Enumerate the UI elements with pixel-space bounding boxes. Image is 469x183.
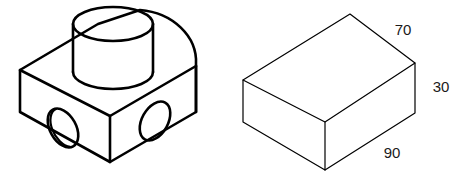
box-top-face	[243, 14, 415, 122]
top-face-outline	[20, 10, 196, 116]
boss-top-ellipse	[73, 7, 153, 41]
front-right-side-face	[110, 66, 196, 162]
dimension-height-label: 30	[433, 78, 450, 95]
front-face-hole	[133, 96, 176, 145]
dimension-depth-label: 70	[395, 21, 412, 38]
box-right-face	[325, 63, 415, 170]
technical-drawing-svg: 70 30 90	[0, 0, 469, 183]
left-part-figure	[20, 7, 196, 162]
boss-bottom-arc	[73, 72, 153, 89]
drawing-canvas: 70 30 90	[0, 0, 469, 183]
box-left-face	[243, 80, 325, 170]
dimension-width-label: 90	[384, 144, 401, 161]
dimension-labels: 70 30 90	[384, 21, 450, 161]
left-side-face	[20, 70, 110, 162]
